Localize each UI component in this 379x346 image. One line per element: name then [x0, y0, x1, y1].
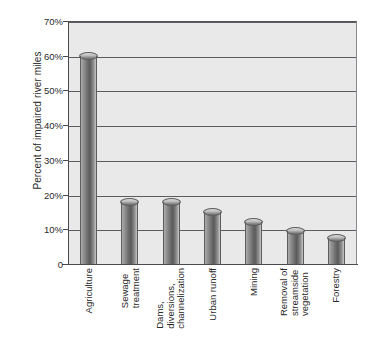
y-tick-mark-60: [63, 56, 68, 57]
bar: [245, 222, 262, 264]
y-tick-label-70: 70%: [19, 16, 63, 27]
x-category-text: Urban runoff: [207, 268, 218, 321]
x-category-line: Agriculture: [83, 268, 94, 313]
y-tick-mark-30: [63, 160, 68, 161]
x-category-line: Sewage: [119, 268, 130, 308]
bar-edge-right: [137, 202, 138, 264]
x-category-line: Removal of: [279, 268, 290, 316]
y-tick-mark-50: [63, 90, 68, 91]
x-category-text: Sewagetreatment: [119, 268, 140, 308]
x-category-line: Urban runoff: [207, 268, 218, 321]
y-tick-label-10: 10%: [19, 224, 63, 235]
x-category-label: Dams,diversions,channelization: [149, 268, 193, 346]
gridline-60: [68, 57, 356, 58]
x-category-line: Forestry: [331, 268, 342, 303]
gridline-50: [68, 91, 356, 92]
bar-edge-left: [245, 222, 246, 264]
gridline-20: [68, 196, 356, 197]
bar-edge-right: [96, 56, 97, 264]
y-tick-mark-10: [63, 229, 68, 230]
y-tick-mark-70: [63, 21, 68, 22]
x-axis-line: [62, 264, 358, 265]
x-category-line: Mining: [249, 268, 260, 296]
gridline-70: [68, 22, 356, 23]
x-category-label: Sewagetreatment: [108, 268, 152, 346]
x-category-line: channelization: [176, 268, 187, 329]
y-tick-label-30: 30%: [19, 154, 63, 165]
x-category-label: Removal ofstreamsidevegetation: [273, 268, 317, 346]
bar-edge-left: [287, 231, 288, 264]
y-tick-label-20: 20%: [19, 189, 63, 200]
bar-edge-left: [163, 202, 164, 264]
x-category-label: Agriculture: [67, 268, 111, 346]
x-category-text: Dams,diversions,channelization: [155, 268, 187, 329]
y-tick-mark-40: [63, 125, 68, 126]
bar-edge-left: [328, 238, 329, 264]
bar-edge-right: [261, 222, 262, 264]
gridline-40: [68, 126, 356, 127]
bar-edge-right: [179, 202, 180, 264]
x-category-text: Agriculture: [83, 268, 94, 313]
bar-edge-left: [80, 56, 81, 264]
gridline-30: [68, 161, 356, 162]
bar-chart-figure: Percent of impaired river miles 010%20%3…: [0, 0, 379, 346]
y-axis-line: [68, 21, 69, 265]
bar-edge-right: [344, 238, 345, 264]
x-category-label: Mining: [232, 268, 276, 346]
y-tick-label-40: 40%: [19, 120, 63, 131]
bar: [80, 56, 97, 264]
y-tick-label-60: 60%: [19, 50, 63, 61]
x-category-line: treatment: [130, 268, 141, 308]
bar-edge-left: [121, 202, 122, 264]
x-category-line: vegetation: [300, 268, 311, 316]
bar-edge-right: [220, 212, 221, 264]
x-category-text: Forestry: [331, 268, 342, 303]
bar-edge-right: [303, 231, 304, 264]
y-tick-label-50: 50%: [19, 85, 63, 96]
bar: [121, 202, 138, 264]
y-tick-mark-0: [63, 264, 68, 265]
x-category-label: Urban runoff: [191, 268, 235, 346]
y-tick-label-0: 0: [19, 259, 63, 270]
bar-edge-left: [204, 212, 205, 264]
x-category-text: Mining: [249, 268, 260, 296]
bar: [287, 231, 304, 264]
bar: [204, 212, 221, 264]
bar: [328, 238, 345, 264]
bar: [163, 202, 180, 264]
x-category-text: Removal ofstreamsidevegetation: [279, 268, 311, 316]
x-category-label: Forestry: [314, 268, 358, 346]
y-tick-mark-20: [63, 195, 68, 196]
